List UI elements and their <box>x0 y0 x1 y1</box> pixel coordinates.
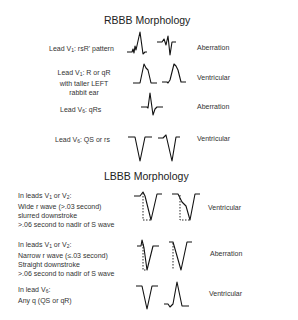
lead-text: : qRs <box>85 106 101 113</box>
ecg-rs-wave <box>158 133 184 163</box>
lead-text: : <box>70 241 72 248</box>
lead-text: : <box>48 286 50 293</box>
ecg-triphasic-wave <box>157 35 179 57</box>
lead-text: In leads V <box>18 241 49 248</box>
lead-text: Lead V <box>49 45 71 52</box>
rbbb-row1-result: Aberration <box>197 44 229 51</box>
lead-text: or V <box>52 241 67 248</box>
ecg-wide-r-slurred-wave <box>134 190 168 224</box>
rbbb-row4-label: Lead V6: QS or rs <box>55 135 110 146</box>
ecg-straight-downstroke-wave <box>169 238 199 274</box>
ecg-qrs-wave <box>141 93 167 121</box>
lead-text: : R or qR <box>82 69 110 76</box>
lead-text: Lead V <box>55 136 77 143</box>
rbbb-row4-result: Ventricular <box>197 135 230 142</box>
label-line: >.06 second to nadir of S wave <box>18 220 114 229</box>
rbbb-title: RBBB Morphology <box>104 14 190 26</box>
lbbb-row3-label: In lead V6: Any q (QS or qR) <box>18 285 72 305</box>
ecg-slurred-downstroke-wave <box>172 190 206 224</box>
lbbb-title: LBBB Morphology <box>104 170 189 182</box>
ecg-rsr-prime-wave <box>127 30 157 58</box>
rbbb-row2-label: Lead V1: R or qR with taller LEFT rabbit… <box>48 68 120 97</box>
lead-text: : rsR' pattern <box>74 45 114 52</box>
lead-text: : QS or rs <box>80 136 110 143</box>
lead-text: Lead V <box>60 106 82 113</box>
lead-text: or V <box>52 192 67 199</box>
lbbb-row2-label: In leads V1 or V2: Narrow r wave (≤.03 s… <box>18 240 114 278</box>
rbbb-row3-result: Aberration <box>197 103 229 110</box>
label-line: >.06 second to nadir of S wave <box>18 269 114 278</box>
rbbb-row3-label: Lead V6: qRs <box>60 105 101 116</box>
ecg-qs-wave <box>136 283 162 313</box>
rbbb-row2-result: Ventricular <box>197 74 230 81</box>
ecg-taller-left-ear-wave <box>133 62 159 86</box>
lbbb-row2-result: Aberration <box>210 250 242 257</box>
lbbb-row3-result: Ventricular <box>209 290 242 297</box>
lbbb-row1-label: In leads V1 or V2: Wide r wave (>.03 sec… <box>18 191 114 229</box>
label-line: rabbit ear <box>48 88 120 97</box>
label-line: slurred downstroke <box>18 211 114 220</box>
label-line: with taller LEFT <box>48 79 120 88</box>
lead-text: In lead V <box>18 286 46 293</box>
ecg-qs-wave <box>128 134 154 164</box>
label-line: Any q (QS or qR) <box>18 296 72 305</box>
rbbb-row1-label: Lead V1: rsR' pattern <box>49 44 114 55</box>
ecg-qr-wave <box>162 62 188 86</box>
ecg-narrow-r-wave <box>137 238 167 274</box>
lbbb-row1-result: Ventricular <box>208 204 241 211</box>
lead-text: In leads V <box>18 192 49 199</box>
label-line: Straight downstroke <box>18 260 114 269</box>
lead-text: : <box>70 192 72 199</box>
label-line: Narrow r wave (≤.03 second) <box>18 251 114 260</box>
lead-text: Lead V <box>58 69 80 76</box>
label-line: Wide r wave (>.03 second) <box>18 202 114 211</box>
ecg-qr-wave <box>164 280 192 312</box>
